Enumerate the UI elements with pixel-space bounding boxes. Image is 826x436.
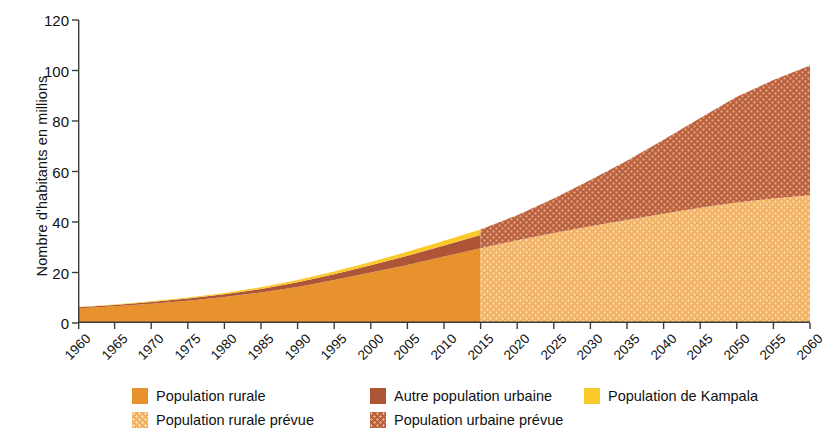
- x-tick-label-text: 1990: [281, 331, 313, 363]
- legend-swatch-urbaine: [370, 388, 386, 404]
- x-tick-label-text: 1985: [245, 331, 277, 363]
- x-tick-label-text: 1960: [62, 331, 94, 363]
- x-tick-label-text: 2050: [721, 331, 753, 363]
- legend-swatch-rural: [132, 388, 148, 404]
- legend-item[interactable]: Population rurale: [132, 388, 266, 404]
- x-tick-label-text: 1995: [318, 331, 350, 363]
- legend-swatch-rural-prevue: [132, 412, 148, 428]
- x-tick-label-text: 2030: [574, 331, 606, 363]
- x-tick-label-text: 1965: [98, 331, 130, 363]
- legend-item[interactable]: Population urbaine prévue: [370, 412, 563, 428]
- plot-area: 020406080100120 196019651970197519801985…: [78, 20, 810, 323]
- x-tick-label-text: 2035: [611, 331, 643, 363]
- x-tick-label-text: 2000: [355, 331, 387, 363]
- y-tick-label: 40: [52, 214, 69, 231]
- x-tick-label-text: 2025: [538, 331, 570, 363]
- y-tick-label: 100: [44, 62, 69, 79]
- chart-legend: Population ruralePopulation rurale prévu…: [132, 388, 792, 434]
- legend-item-label: Population urbaine prévue: [394, 413, 563, 428]
- legend-swatch-urbaine-prevue: [370, 412, 386, 428]
- legend-item[interactable]: Autre population urbaine: [370, 388, 552, 404]
- legend-item-label: Autre population urbaine: [394, 389, 552, 404]
- x-tick-label-text: 1975: [172, 331, 204, 363]
- legend-item-label: Population rurale prévue: [156, 413, 314, 428]
- y-tick-label: 80: [52, 113, 69, 130]
- legend-item[interactable]: Population de Kampala: [584, 388, 758, 404]
- x-tick-label-text: 1980: [208, 331, 240, 363]
- x-tick-label-text: 2005: [391, 331, 423, 363]
- x-tick-label-text: 2020: [501, 331, 533, 363]
- x-tick-label-text: 1970: [135, 331, 167, 363]
- x-tick-label-text: 2015: [464, 331, 496, 363]
- legend-item[interactable]: Population rurale prévue: [132, 412, 314, 428]
- y-tick-label: 60: [52, 163, 69, 180]
- x-tick-label-text: 2010: [428, 331, 460, 363]
- legend-item-label: Population de Kampala: [608, 389, 758, 404]
- chart-canvas: [70, 20, 812, 332]
- x-tick-label-text: 2040: [647, 331, 679, 363]
- y-tick-label: 120: [44, 12, 69, 29]
- legend-swatch-kampala: [584, 388, 600, 404]
- legend-item-label: Population rurale: [156, 389, 266, 404]
- y-tick-label: 0: [61, 315, 69, 332]
- x-tick-label-text: 2060: [794, 331, 826, 363]
- x-tick-label-text: 2045: [684, 331, 716, 363]
- x-tick-label-text: 2055: [757, 331, 789, 363]
- y-tick-label: 20: [52, 264, 69, 281]
